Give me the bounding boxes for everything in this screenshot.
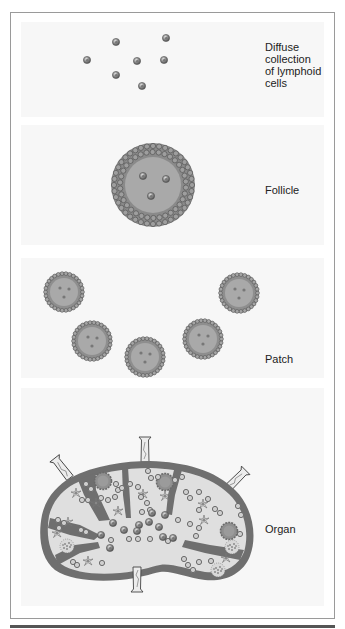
organ-illustration <box>40 437 253 592</box>
label-line: of lymphoid <box>265 65 321 77</box>
follicle-illustration <box>111 143 195 227</box>
label-line: Diffuse <box>265 41 321 53</box>
label-patch: Patch <box>265 353 293 365</box>
label-follicle: Follicle <box>265 184 299 196</box>
label-diffuse: Diffuse collection of lymphoid cells <box>265 41 321 89</box>
bottom-rule <box>10 625 335 628</box>
vessel-top <box>139 437 151 462</box>
label-line: cells <box>265 77 321 89</box>
label-line: collection <box>265 53 321 65</box>
patch-illustration <box>44 272 260 378</box>
vessel-bottom <box>131 567 143 592</box>
diffuse-lymphoid-cells <box>83 34 169 89</box>
label-organ: Organ <box>265 523 296 535</box>
